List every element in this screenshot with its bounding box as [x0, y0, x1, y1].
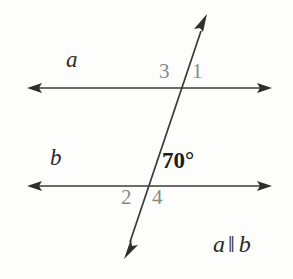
- transversal-bottom-arrowhead: [124, 239, 138, 259]
- parallel-caption: a‖b: [213, 232, 251, 256]
- line-a-group: [27, 83, 272, 93]
- angle-number-1: 1: [192, 61, 203, 82]
- angle-number-2: 2: [121, 187, 132, 208]
- line-a-label: a: [66, 48, 78, 71]
- geometry-figure-canvas: a b 3 1 2 4 70° a‖b: [0, 0, 293, 279]
- caption-line-b: b: [239, 231, 251, 257]
- line-b-label: b: [50, 146, 62, 169]
- transversal-top-arrowhead: [194, 14, 207, 32]
- caption-line-a: a: [213, 231, 225, 257]
- transversal-group: [124, 14, 207, 259]
- parallel-symbol-icon: ‖: [225, 231, 239, 257]
- angle-number-4: 4: [152, 187, 163, 208]
- angle-number-3: 3: [159, 61, 170, 82]
- angle-measure-70-degrees: 70°: [162, 149, 194, 172]
